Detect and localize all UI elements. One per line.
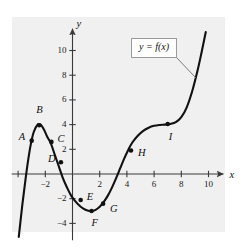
y-tick-label: 6 [62, 95, 67, 104]
y-tick-label: 4 [62, 120, 67, 129]
x-tick-label: −2 [40, 180, 50, 189]
labeled-points-group [29, 122, 170, 214]
point-label-E: E [87, 192, 93, 203]
data-point-marker-G [101, 201, 106, 206]
callout-leader-line [176, 57, 196, 78]
y-tick-label: −4 [57, 219, 67, 228]
point-label-F: F [92, 218, 98, 229]
y-axis-label: y [77, 19, 82, 30]
data-point-marker-D [59, 160, 64, 165]
point-label-C: C [57, 134, 64, 145]
x-tick-label: 2 [95, 180, 105, 189]
x-tick-label: 8 [176, 180, 186, 189]
point-label-B: B [36, 105, 42, 116]
x-tick-label: 4 [122, 180, 132, 189]
x-axis-label: x [229, 170, 234, 181]
data-point-marker-F [89, 209, 94, 214]
y-tick-label: −2 [57, 194, 67, 203]
data-point-marker-H [129, 148, 134, 153]
point-label-A: A [19, 132, 25, 143]
y-tick-label: 2 [62, 145, 67, 154]
x-tick-label: 6 [149, 180, 159, 189]
data-point-marker-C [49, 140, 54, 145]
data-point-marker-B [37, 123, 42, 128]
x-tick-label: 10 [204, 180, 214, 189]
point-label-H: H [138, 148, 146, 159]
point-label-G: G [110, 204, 118, 215]
data-point-marker-E [78, 198, 83, 203]
y-tick-label: 10 [58, 46, 67, 55]
point-label-I: I [169, 132, 173, 143]
function-graph-figure: −2246810108642−2−4ABCDEFGHI y = f(x) x y [0, 0, 245, 250]
point-label-D: D [48, 154, 56, 165]
graph-drawing-layer [0, 0, 245, 250]
y-tick-label: 8 [62, 71, 67, 80]
function-callout-box: y = f(x) [131, 38, 177, 58]
data-point-marker-I [165, 122, 170, 127]
callout-leader-line-group [176, 57, 196, 78]
data-point-marker-A [29, 138, 34, 143]
